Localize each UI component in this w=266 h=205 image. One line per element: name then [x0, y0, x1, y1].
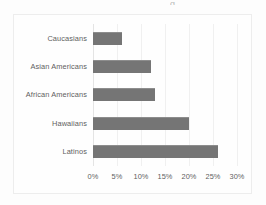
- category-label: Latinos: [62, 147, 87, 156]
- cropped-chart-title: g: [170, 0, 186, 5]
- bar-row: Hawaiians: [93, 109, 237, 137]
- bar-chart-figure: g CaucasiansAsian AmericansAfrican Ameri…: [0, 0, 266, 205]
- x-tick-label: 20%: [181, 172, 196, 181]
- category-label: Hawaiians: [52, 119, 87, 128]
- bar: [93, 145, 218, 158]
- category-label: Caucasians: [47, 34, 87, 43]
- gridline-30: [237, 24, 238, 166]
- bar: [93, 88, 155, 101]
- x-tick-label: 15%: [157, 172, 172, 181]
- x-tick-label: 30%: [229, 172, 244, 181]
- bar: [93, 117, 189, 130]
- bar-row: Latinos: [93, 138, 237, 166]
- x-tick-label: 10%: [133, 172, 148, 181]
- x-tick-label: 0%: [88, 172, 99, 181]
- category-label: African Americans: [26, 90, 87, 99]
- bar: [93, 32, 122, 45]
- plot-area: CaucasiansAsian AmericansAfrican America…: [93, 24, 237, 166]
- category-label: Asian Americans: [30, 62, 87, 71]
- x-tick-label: 25%: [205, 172, 220, 181]
- x-axis-tick-labels: 0%5%10%15%20%25%30%: [93, 172, 237, 186]
- bar: [93, 60, 151, 73]
- bar-row: Asian Americans: [93, 52, 237, 80]
- x-tick-label: 5%: [112, 172, 123, 181]
- bar-row: Caucasians: [93, 24, 237, 52]
- bar-row: African Americans: [93, 81, 237, 109]
